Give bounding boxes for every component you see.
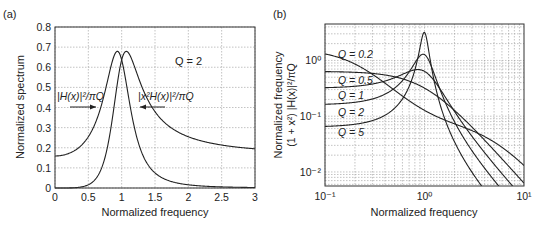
x-tick-label: 10⁻¹ — [314, 190, 336, 202]
x-tick-label: 10¹ — [516, 190, 532, 202]
curve-h — [55, 51, 255, 187]
q-label: Q = 5 — [338, 126, 364, 138]
figure: (a) 00.511.522.5300.10.20.30.40.50.60.70… — [0, 0, 536, 228]
y-tick-label: 0.1 — [36, 162, 51, 174]
x-tick-label: 3 — [252, 191, 258, 203]
x-tick-label: 2 — [185, 191, 191, 203]
y-tick-label: 0.7 — [36, 41, 51, 53]
panel-label-b: (b) — [273, 8, 286, 20]
y-tick-label: 10⁰ — [305, 54, 322, 66]
curve-x2h — [55, 51, 255, 188]
q-label: Q = 0.5 — [338, 74, 373, 86]
y-tick-label: 0.3 — [36, 122, 51, 134]
x-tick-label: 0.5 — [81, 191, 96, 203]
x-tick-label: 1.5 — [148, 191, 163, 203]
y-tick-label: 0.8 — [36, 21, 51, 33]
y-tick-label: 0.6 — [36, 61, 51, 73]
y-tick-label: 0.5 — [36, 81, 51, 93]
y-tick-label: 0.4 — [36, 102, 51, 114]
y-axis-label-b-line2: (1 + x²) |H(x)|²/πQ — [285, 63, 297, 147]
annotation-x2h: |x²H(x)|²/πQ — [138, 90, 194, 102]
axis-ticks-a: 00.511.522.5300.10.20.30.40.50.60.70.8 — [36, 21, 258, 203]
q-label: Q = 0.2 — [338, 48, 373, 60]
q-label: Q = 2 — [338, 106, 364, 118]
y-tick-label: 10⁻¹ — [300, 110, 322, 122]
x-axis-label-b: Normalized frequency — [371, 206, 478, 218]
y-tick-label: 10⁻² — [300, 166, 322, 178]
chart-panel-a: (a) 00.511.522.5300.10.20.30.40.50.60.70… — [3, 8, 258, 218]
y-axis-label-a: Normalized spectrum — [14, 55, 26, 159]
y-axis-label-b-line1: Normalized frequency — [272, 51, 284, 158]
x-axis-label-a: Normalized frequency — [102, 206, 209, 218]
curves-a — [55, 51, 255, 188]
x-tick-label: 1 — [119, 191, 125, 203]
q-label: Q = 1 — [338, 89, 364, 101]
y-tick-label: 0.2 — [36, 142, 51, 154]
panel-label-a: (a) — [3, 8, 16, 20]
axis-ticks-b: 10⁻¹10⁰10¹10⁻²10⁻¹10⁰ — [300, 54, 532, 202]
chart-panel-b: (b) 10⁻¹10⁰10¹10⁻²10⁻¹10⁰ Normalized fre… — [272, 8, 532, 228]
x-tick-label: 10⁰ — [417, 190, 434, 202]
q-annotation: Q = 2 — [175, 55, 202, 67]
x-tick-label: 0 — [52, 191, 58, 203]
x-tick-label: 2.5 — [214, 191, 229, 203]
y-tick-label: 0 — [45, 182, 51, 194]
annotation-h: |H(x)|²/πQ — [57, 90, 104, 102]
arrow-h — [70, 105, 96, 110]
